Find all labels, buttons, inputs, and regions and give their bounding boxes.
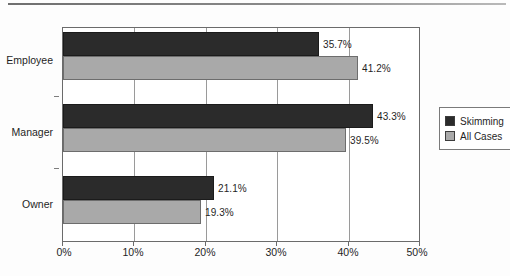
bar-value-manager-all-cases: 39.5%	[350, 135, 379, 146]
bar-value-manager-skimming: 43.3%	[377, 111, 406, 122]
y-axis: Employee Manager Owner	[0, 27, 58, 242]
y-axis-label-employee: Employee	[6, 54, 53, 66]
bar-value-owner-skimming: 21.1%	[218, 183, 247, 194]
y-axis-tick-2	[54, 168, 59, 169]
bar-value-employee-all-cases: 41.2%	[362, 63, 391, 74]
bar-employee-all-cases[interactable]	[63, 56, 358, 80]
x-axis-label-20: 20%	[194, 246, 215, 258]
bar-owner-skimming[interactable]	[63, 176, 214, 200]
legend-label-skimming: Skimming	[460, 116, 504, 127]
y-axis-label-owner: Owner	[22, 198, 53, 210]
y-axis-label-manager: Manager	[12, 126, 53, 138]
x-axis-label-30: 30%	[265, 246, 286, 258]
bar-owner-all-cases[interactable]	[63, 200, 201, 224]
page-separator-rule	[8, 3, 506, 5]
legend-item-all-cases[interactable]: All Cases	[445, 129, 504, 143]
chart-page: 35.7% 41.2% 43.3% 39.5% 21.1%	[0, 0, 510, 276]
x-axis: 0% 10% 20% 30% 40% 50%	[0, 246, 510, 262]
plot-area: 35.7% 41.2% 43.3% 39.5% 21.1%	[62, 27, 420, 242]
x-axis-label-10: 10%	[122, 246, 143, 258]
legend-swatch-all-cases-icon	[445, 131, 455, 141]
x-axis-label-0: 0%	[56, 246, 71, 258]
legend-swatch-skimming-icon	[445, 116, 455, 126]
y-axis-tick-1	[54, 96, 59, 97]
bar-manager-all-cases[interactable]	[63, 128, 346, 152]
x-axis-label-50: 50%	[406, 246, 427, 258]
legend-item-skimming[interactable]: Skimming	[445, 114, 504, 128]
bar-value-employee-skimming: 35.7%	[323, 39, 352, 50]
bar-manager-skimming[interactable]	[63, 104, 373, 128]
chart-legend: Skimming All Cases	[439, 107, 510, 150]
bar-employee-skimming[interactable]	[63, 32, 319, 56]
bar-value-owner-all-cases: 19.3%	[205, 207, 234, 218]
legend-label-all-cases: All Cases	[460, 131, 502, 142]
x-axis-label-40: 40%	[337, 246, 358, 258]
